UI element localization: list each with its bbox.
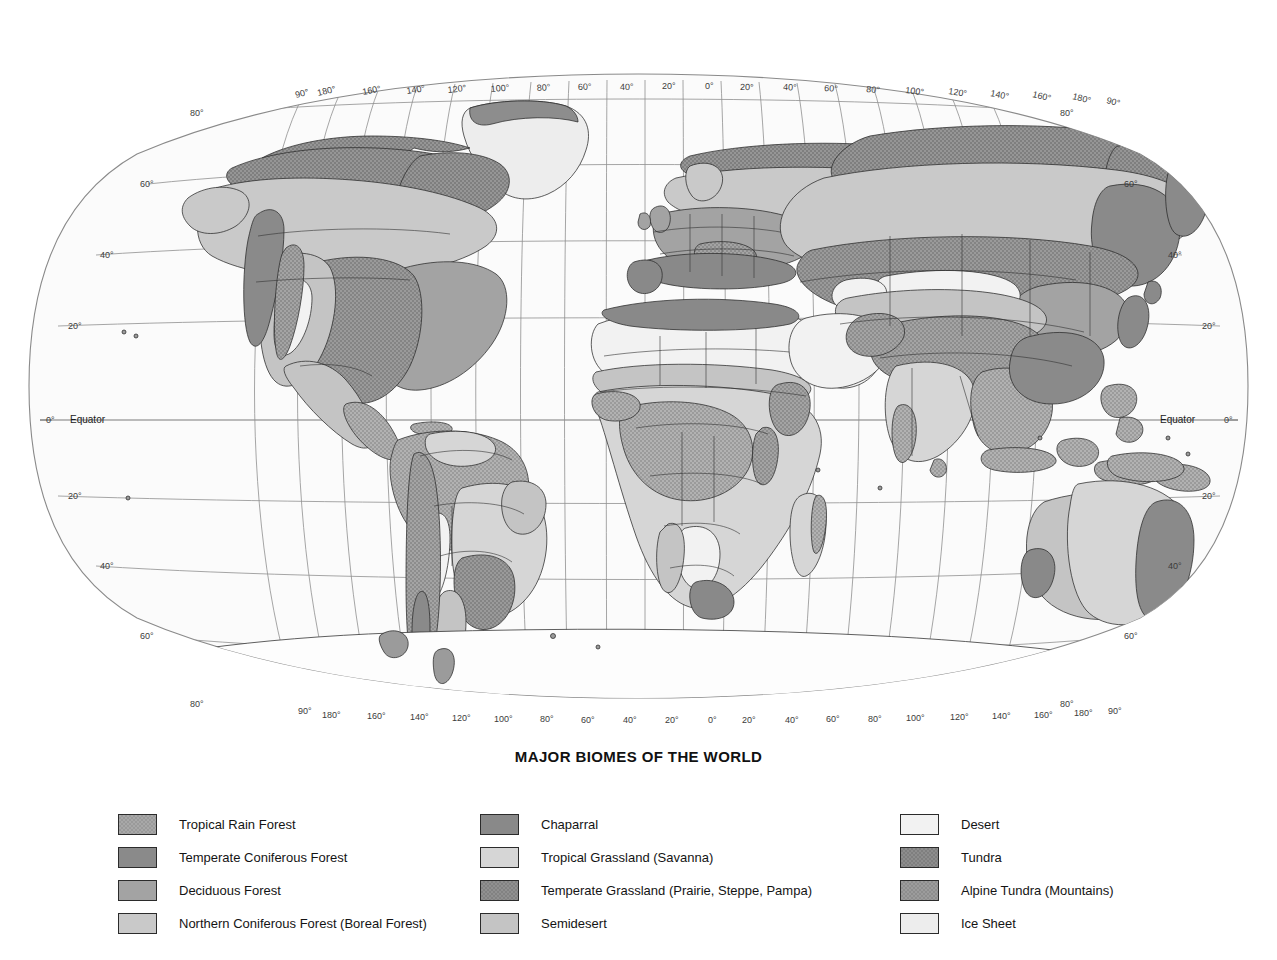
legend-swatch-temperate-coniferous-forest: [118, 847, 157, 868]
svg-text:80°: 80°: [536, 82, 551, 93]
legend-swatch-chaparral: [480, 814, 519, 835]
svg-text:120°: 120°: [452, 713, 471, 723]
svg-text:40°: 40°: [623, 715, 637, 725]
svg-text:20°: 20°: [662, 81, 676, 91]
legend-item[interactable]: Tundra: [900, 841, 1277, 874]
legend-label: Semidesert: [541, 916, 607, 931]
svg-text:180°: 180°: [1074, 708, 1093, 718]
svg-text:80°: 80°: [190, 108, 204, 118]
svg-text:140°: 140°: [990, 88, 1011, 101]
svg-text:20°: 20°: [1202, 321, 1216, 331]
svg-text:60°: 60°: [140, 179, 154, 189]
legend-swatch-alpine-tundra: [900, 880, 939, 901]
svg-text:90°: 90°: [294, 87, 310, 100]
svg-text:0°: 0°: [46, 415, 55, 425]
legend-column-2: Chaparral Tropical Grassland (Savanna) T…: [470, 808, 890, 956]
legend-swatch-deciduous-forest: [118, 880, 157, 901]
svg-text:60°: 60°: [824, 83, 839, 94]
svg-text:60°: 60°: [578, 82, 592, 92]
world-map: 90° 180° 160° 140° 120° 100° 80° 60° 40°…: [0, 36, 1277, 736]
legend-item[interactable]: Deciduous Forest: [118, 874, 470, 907]
legend-item[interactable]: Tropical Rain Forest: [118, 808, 470, 841]
legend-item[interactable]: Tropical Grassland (Savanna): [480, 841, 890, 874]
legend-swatch-temperate-grassland: [480, 880, 519, 901]
svg-text:180°: 180°: [322, 710, 341, 720]
svg-text:80°: 80°: [540, 714, 554, 724]
legend-item[interactable]: Alpine Tundra (Mountains): [900, 874, 1277, 907]
legend-label: Chaparral: [541, 817, 598, 832]
legend-swatch-tropical-rain-forest: [118, 814, 157, 835]
legend-item[interactable]: Ice Sheet: [900, 907, 1277, 940]
legend-label: Tropical Grassland (Savanna): [541, 850, 713, 865]
svg-text:20°: 20°: [1202, 491, 1216, 501]
equator-label-left: Equator: [70, 414, 106, 425]
svg-text:40°: 40°: [620, 82, 634, 92]
legend-label: Ice Sheet: [961, 916, 1016, 931]
svg-text:80°: 80°: [868, 714, 882, 724]
svg-text:140°: 140°: [992, 711, 1011, 721]
svg-text:180°: 180°: [1072, 91, 1093, 105]
legend-item[interactable]: Chaparral: [480, 808, 890, 841]
legend-item[interactable]: Northern Coniferous Forest (Boreal Fores…: [118, 907, 470, 940]
equator-label-right: Equator: [1160, 414, 1196, 425]
page-title: MAJOR BIOMES OF THE WORLD: [0, 748, 1277, 765]
svg-text:100°: 100°: [906, 713, 925, 723]
svg-text:180°: 180°: [316, 84, 337, 98]
svg-text:160°: 160°: [1034, 710, 1053, 720]
legend-item[interactable]: Temperate Grassland (Prairie, Steppe, Pa…: [480, 874, 890, 907]
svg-text:20°: 20°: [68, 491, 82, 501]
svg-text:60°: 60°: [826, 714, 840, 724]
svg-text:40°: 40°: [100, 561, 114, 571]
legend: Tropical Rain Forest Temperate Coniferou…: [0, 808, 1277, 956]
legend-label: Temperate Grassland (Prairie, Steppe, Pa…: [541, 883, 812, 898]
legend-label: Tropical Rain Forest: [179, 817, 296, 832]
svg-text:0°: 0°: [705, 81, 714, 91]
legend-column-3: Desert Tundra Alpine Tundra (Mountains) …: [890, 808, 1277, 956]
legend-swatch-tropical-grassland: [480, 847, 519, 868]
svg-text:40°: 40°: [1168, 561, 1182, 571]
svg-text:80°: 80°: [1060, 108, 1074, 118]
world-map-svg: 90° 180° 160° 140° 120° 100° 80° 60° 40°…: [0, 36, 1277, 736]
legend-label: Tundra: [961, 850, 1002, 865]
svg-text:160°: 160°: [367, 711, 386, 721]
legend-swatch-desert: [900, 814, 939, 835]
legend-item[interactable]: Desert: [900, 808, 1277, 841]
svg-text:40°: 40°: [100, 250, 114, 260]
legend-swatch-tundra: [900, 847, 939, 868]
svg-text:60°: 60°: [581, 715, 595, 725]
longitude-labels-bottom: 90° 180° 160° 140° 120° 100° 80° 60° 40°…: [298, 706, 1122, 725]
svg-text:120°: 120°: [950, 712, 969, 722]
svg-text:40°: 40°: [783, 82, 797, 92]
svg-text:40°: 40°: [785, 715, 799, 725]
legend-label: Desert: [961, 817, 999, 832]
svg-text:160°: 160°: [1032, 89, 1053, 103]
svg-text:20°: 20°: [665, 715, 679, 725]
svg-text:20°: 20°: [68, 321, 82, 331]
svg-text:140°: 140°: [410, 712, 429, 722]
svg-text:90°: 90°: [1108, 706, 1122, 716]
legend-column-1: Tropical Rain Forest Temperate Coniferou…: [0, 808, 470, 956]
svg-text:0°: 0°: [1224, 415, 1233, 425]
biome-map-page: 90° 180° 160° 140° 120° 100° 80° 60° 40°…: [0, 0, 1277, 960]
svg-text:90°: 90°: [298, 706, 312, 716]
svg-text:60°: 60°: [1124, 631, 1138, 641]
svg-text:120°: 120°: [948, 86, 968, 99]
svg-text:60°: 60°: [140, 631, 154, 641]
svg-text:60°: 60°: [1124, 179, 1138, 189]
legend-item[interactable]: Temperate Coniferous Forest: [118, 841, 470, 874]
legend-swatch-semidesert: [480, 913, 519, 934]
svg-text:0°: 0°: [708, 715, 717, 725]
svg-text:40°: 40°: [1168, 250, 1182, 260]
svg-text:20°: 20°: [742, 715, 756, 725]
svg-text:20°: 20°: [740, 82, 754, 92]
svg-text:100°: 100°: [494, 714, 513, 724]
svg-text:80°: 80°: [1060, 699, 1074, 709]
legend-label: Alpine Tundra (Mountains): [961, 883, 1113, 898]
legend-swatch-ice-sheet: [900, 913, 939, 934]
svg-text:80°: 80°: [866, 84, 881, 95]
legend-label: Northern Coniferous Forest (Boreal Fores…: [179, 916, 427, 931]
svg-text:80°: 80°: [190, 699, 204, 709]
svg-text:100°: 100°: [490, 82, 510, 94]
legend-item[interactable]: Semidesert: [480, 907, 890, 940]
legend-label: Deciduous Forest: [179, 883, 281, 898]
